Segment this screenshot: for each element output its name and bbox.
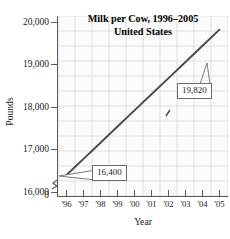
callout-start-value: 16,400: [92, 165, 127, 181]
callout-end-value: 19,820: [177, 83, 212, 99]
callout-leader-lines: [0, 0, 230, 239]
chart-figure: 16,00017,00018,00019,00020,0000 '96'97'9…: [0, 0, 230, 239]
